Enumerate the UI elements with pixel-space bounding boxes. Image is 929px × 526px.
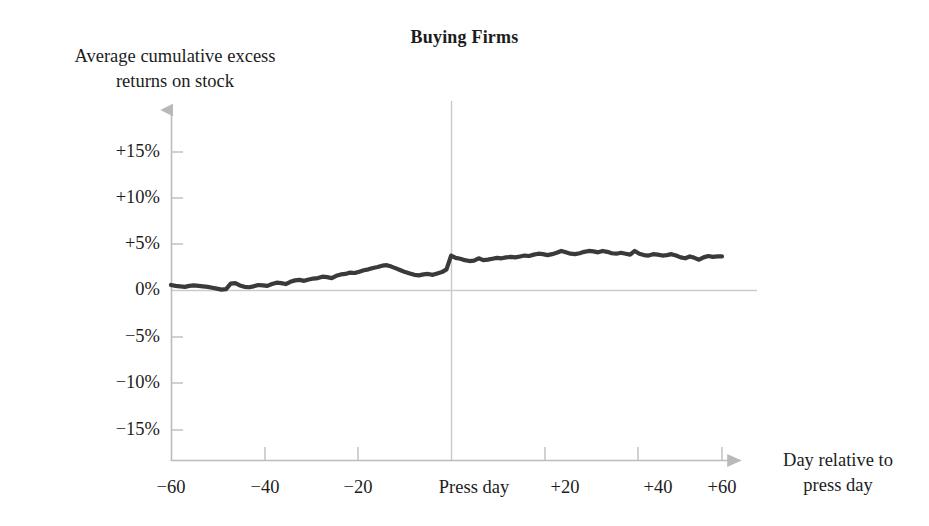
chart-figure: Buying Firms Average cumulative excess r… [0,0,929,526]
plot-area [0,0,929,526]
x-axis-ticks [265,447,722,460]
excess-returns-line [171,251,722,290]
